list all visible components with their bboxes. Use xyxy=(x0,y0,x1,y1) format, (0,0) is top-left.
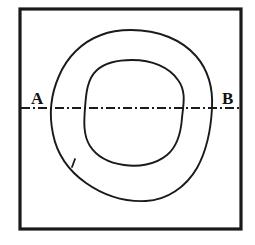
section-label-a: A xyxy=(31,89,44,108)
figure-svg: A B xyxy=(0,0,255,245)
figure-background xyxy=(0,0,255,245)
section-label-b: B xyxy=(222,89,233,108)
figure-root: A B xyxy=(0,0,255,245)
